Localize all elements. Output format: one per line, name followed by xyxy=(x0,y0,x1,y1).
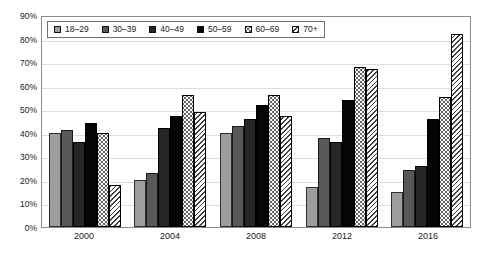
y-axis-tick-label: 20% xyxy=(20,177,37,186)
legend-item-label: 50–59 xyxy=(208,25,232,34)
y-axis-tick-label: 50% xyxy=(20,106,37,115)
bar xyxy=(354,67,366,227)
x-axis-tick-label: 2016 xyxy=(385,232,471,241)
x-axis: 20002004200820122016 xyxy=(41,232,471,241)
plot-area xyxy=(41,16,471,228)
legend-swatch-icon xyxy=(292,26,299,33)
legend-item-label: 60–69 xyxy=(256,25,280,34)
bar xyxy=(342,100,354,227)
bar xyxy=(146,173,158,227)
bar xyxy=(280,116,292,227)
y-axis-tick-label: 70% xyxy=(20,59,37,68)
bar xyxy=(85,123,97,227)
bar xyxy=(403,170,415,227)
x-axis-tick-label: 2008 xyxy=(213,232,299,241)
chart-legend: 18–2930–3940–4950–5960–6970+ xyxy=(47,21,325,38)
bar xyxy=(182,95,194,227)
bar xyxy=(134,180,146,227)
bar xyxy=(109,185,121,227)
bar-chart: 0%10%20%30%40%50%60%70%80%90% 18–2930–39… xyxy=(0,0,481,257)
bar-group xyxy=(213,17,299,227)
x-axis-tick-label: 2012 xyxy=(299,232,385,241)
bar xyxy=(194,112,206,227)
bar xyxy=(427,119,439,227)
bar xyxy=(415,166,427,227)
bar xyxy=(244,119,256,227)
bar xyxy=(73,142,85,227)
bar-group xyxy=(299,17,385,227)
bar xyxy=(97,133,109,227)
y-axis-tick-label: 80% xyxy=(20,35,37,44)
legend-swatch-icon xyxy=(102,26,109,33)
bar-group xyxy=(384,17,470,227)
x-axis-tick-label: 2004 xyxy=(127,232,213,241)
bar-group xyxy=(128,17,214,227)
legend-item[interactable]: 70+ xyxy=(292,25,317,34)
legend-item-label: 40–49 xyxy=(160,25,184,34)
legend-item[interactable]: 30–39 xyxy=(102,25,137,34)
legend-swatch-icon xyxy=(54,26,61,33)
legend-item[interactable]: 50–59 xyxy=(197,25,232,34)
legend-swatch-icon xyxy=(245,26,252,33)
y-axis: 0%10%20%30%40%50%60%70%80%90% xyxy=(0,0,40,257)
bar xyxy=(306,187,318,227)
y-axis-tick-label: 40% xyxy=(20,130,37,139)
y-axis-tick-label: 60% xyxy=(20,82,37,91)
bar xyxy=(451,34,463,227)
bar xyxy=(318,138,330,228)
bar xyxy=(330,142,342,227)
legend-item[interactable]: 18–29 xyxy=(54,25,89,34)
bar xyxy=(391,192,403,227)
bar xyxy=(268,95,280,227)
y-axis-tick-label: 0% xyxy=(25,224,37,233)
y-axis-tick-label: 30% xyxy=(20,153,37,162)
legend-item-label: 70+ xyxy=(303,25,317,34)
legend-item[interactable]: 60–69 xyxy=(245,25,280,34)
legend-swatch-icon xyxy=(197,26,204,33)
bar xyxy=(220,133,232,227)
bar xyxy=(158,128,170,227)
legend-item-label: 30–39 xyxy=(113,25,137,34)
bar-group xyxy=(42,17,128,227)
x-axis-tick-label: 2000 xyxy=(41,232,127,241)
bar xyxy=(49,133,61,227)
bar xyxy=(439,97,451,227)
legend-swatch-icon xyxy=(149,26,156,33)
bar xyxy=(61,130,73,227)
y-axis-tick-label: 10% xyxy=(20,200,37,209)
bar xyxy=(170,116,182,227)
bar xyxy=(366,69,378,227)
bar xyxy=(232,126,244,227)
bar-groups xyxy=(42,17,470,227)
legend-item[interactable]: 40–49 xyxy=(149,25,184,34)
legend-item-label: 18–29 xyxy=(65,25,89,34)
bar xyxy=(256,105,268,227)
y-axis-tick-label: 90% xyxy=(20,12,37,21)
